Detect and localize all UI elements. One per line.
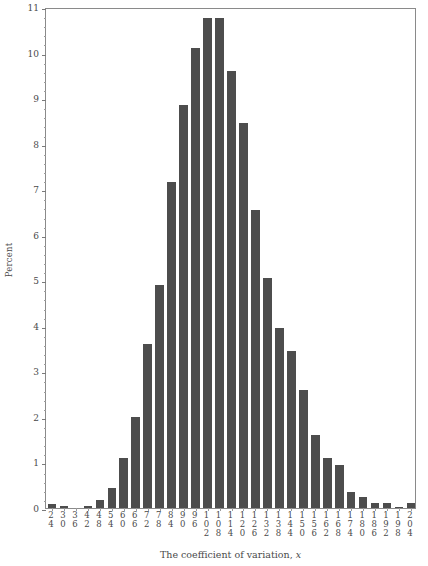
bar — [263, 278, 272, 508]
x-axis-tick-digit: 8 — [96, 520, 101, 529]
x-axis-tick-label: 114 — [228, 511, 233, 538]
bar — [203, 18, 212, 508]
bar — [287, 351, 296, 508]
x-axis-tick-digit: 4 — [48, 520, 53, 529]
bar — [155, 285, 164, 508]
x-axis-tick-label: 30 — [60, 511, 65, 529]
x-axis-tick-label: 48 — [96, 511, 101, 529]
x-axis-tick-label: 132 — [264, 511, 269, 538]
x-axis-tick-digit: 2 — [383, 529, 388, 538]
x-axis-tick-label: 138 — [276, 511, 281, 538]
y-axis-tick-label: 5 — [33, 276, 39, 286]
bar — [227, 71, 236, 508]
x-axis-tick-label: 162 — [324, 511, 329, 538]
x-axis-title-variable: x — [296, 549, 301, 560]
x-axis-tick-label: 90 — [180, 511, 185, 529]
x-axis-tick-digit: 8 — [156, 520, 161, 529]
x-axis-tick-digit: 6 — [312, 529, 317, 538]
x-axis-tick-digit: 2 — [204, 529, 209, 538]
x-axis-tick-label: 156 — [312, 511, 317, 538]
x-axis-tick-label: 84 — [168, 511, 173, 529]
y-axis-tick-label: 1 — [33, 458, 39, 468]
bar — [275, 328, 284, 508]
x-axis-tick-label: 168 — [335, 511, 340, 538]
bar — [347, 492, 356, 508]
x-axis-tick-digit: 6 — [132, 520, 137, 529]
x-axis-tick-label: 192 — [383, 511, 388, 538]
x-axis-tick-label: 36 — [72, 511, 77, 529]
y-axis-tick-label: 4 — [33, 322, 39, 332]
y-axis-title-text: Percent — [4, 243, 14, 278]
x-axis-tick-digit: 6 — [72, 520, 77, 529]
bar — [179, 105, 188, 508]
bar — [215, 18, 224, 508]
y-axis-tick-labels: 01234567891011 — [18, 0, 42, 566]
bar — [191, 48, 200, 508]
x-axis-tick-digit: 4 — [288, 529, 293, 538]
x-axis-tick-label: 78 — [156, 511, 161, 529]
bar — [60, 506, 69, 508]
y-axis-title: Percent — [0, 0, 18, 520]
histogram-figure: Percent 01234567891011 24303642485460667… — [0, 0, 428, 566]
x-axis-tick-label: 198 — [395, 511, 400, 538]
x-axis-tick-label: 96 — [192, 511, 197, 529]
y-axis-tick-label: 0 — [33, 504, 39, 514]
x-axis-tick-label: 126 — [252, 511, 257, 538]
x-axis-tick-digit: 2 — [84, 520, 89, 529]
y-axis-tick-label: 6 — [33, 231, 39, 241]
x-axis-tick-label: 54 — [108, 511, 113, 529]
x-axis-tick-label: 174 — [347, 511, 352, 538]
bar — [143, 344, 152, 508]
bar — [131, 417, 140, 508]
x-axis-tick-digit: 2 — [144, 520, 149, 529]
x-axis-tick-label: 24 — [48, 511, 53, 529]
bar — [119, 458, 128, 508]
bar — [299, 390, 308, 508]
x-axis-tick-digit: 4 — [228, 529, 233, 538]
bar — [96, 500, 105, 508]
bar — [311, 435, 320, 508]
x-axis-tick-label: 66 — [132, 511, 137, 529]
bar — [251, 210, 260, 508]
x-axis-tick-digit: 0 — [300, 529, 305, 538]
x-axis-tick-digit: 8 — [216, 529, 221, 538]
x-axis-tick-label: 72 — [144, 511, 149, 529]
x-axis-tick-label: 60 — [120, 511, 125, 529]
y-axis-tick-label: 2 — [33, 413, 39, 423]
y-axis-tick-label: 7 — [33, 185, 39, 195]
x-axis-tick-digit: 4 — [168, 520, 173, 529]
y-axis-tick-label: 10 — [28, 49, 39, 59]
x-axis-tick-labels: 2430364248546066727884909610210811412012… — [45, 511, 416, 551]
y-axis-tick-label: 8 — [33, 140, 39, 150]
x-axis-title: The coefficient of variation, x — [45, 549, 416, 560]
x-axis-tick-digit: 4 — [108, 520, 113, 529]
bar — [167, 182, 176, 508]
x-axis-tick-digit: 4 — [407, 529, 412, 538]
x-axis-tick-digit: 4 — [347, 529, 352, 538]
x-axis-tick-label: 180 — [359, 511, 364, 538]
bar — [359, 497, 368, 508]
bar — [108, 488, 117, 508]
x-axis-tick-label: 150 — [300, 511, 305, 538]
y-axis-tick-label: 11 — [28, 3, 39, 13]
bar — [395, 507, 404, 508]
x-axis-tick-digit: 2 — [264, 529, 269, 538]
x-axis-tick-digit: 6 — [252, 529, 257, 538]
x-axis-tick-label: 42 — [84, 511, 89, 529]
plot-area — [45, 8, 416, 509]
bar — [84, 506, 93, 508]
bar — [371, 503, 380, 508]
x-axis-tick-digit: 0 — [180, 520, 185, 529]
bar — [407, 503, 416, 508]
x-axis-tick-digit: 0 — [60, 520, 65, 529]
x-axis-tick-digit: 8 — [395, 529, 400, 538]
x-axis-tick-digit: 8 — [335, 529, 340, 538]
bar — [335, 465, 344, 508]
x-axis-tick-digit: 6 — [371, 529, 376, 538]
x-axis-tick-digit: 6 — [192, 520, 197, 529]
x-axis-tick-label: 186 — [371, 511, 376, 538]
x-axis-tick-digit: 2 — [324, 529, 329, 538]
y-axis-tick-label: 9 — [33, 94, 39, 104]
x-axis-tick-digit: 0 — [240, 529, 245, 538]
x-axis-tick-label: 144 — [288, 511, 293, 538]
